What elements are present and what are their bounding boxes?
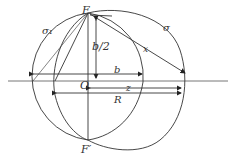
label-r: R — [113, 94, 122, 105]
label-b: b — [114, 64, 120, 75]
label-o: O — [80, 79, 89, 92]
circle-sigma — [88, 10, 185, 149]
label-sigma: σ — [163, 22, 171, 33]
label-f-prime: F′ — [80, 143, 92, 156]
label-x: x — [143, 44, 148, 54]
label-b-half: b/2 — [92, 40, 110, 53]
circle-inner-arc — [54, 13, 88, 140]
label-z: z — [125, 83, 131, 93]
label-f: F — [81, 4, 90, 17]
geometry-diagram: F F′ O σ σ₁ b/2 b x z R — [0, 0, 239, 164]
label-sigma1: σ₁ — [42, 25, 53, 36]
circle-sigma1 — [32, 13, 88, 140]
diagram-canvas: F F′ O σ σ₁ b/2 b x z R — [0, 0, 239, 164]
circle-inner-arc-right — [88, 82, 143, 140]
